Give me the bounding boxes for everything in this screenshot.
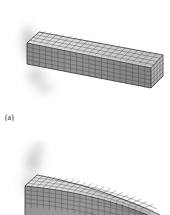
figure-page: (a): [0, 0, 170, 215]
beam-body-deformed: [25, 175, 170, 215]
beam-scene-undeformed: [0, 0, 170, 130]
figure-panel-b: [0, 140, 170, 215]
panel-caption-a: (a): [5, 114, 14, 122]
figure-panel-a: (a): [0, 0, 170, 130]
beam-scene-deformed: [0, 140, 170, 215]
